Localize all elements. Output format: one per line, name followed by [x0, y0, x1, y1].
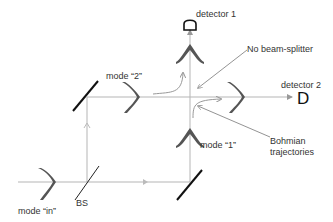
bohmian-label-line1: Bohmian — [270, 137, 306, 146]
no-beam-splitter-label: No beam-splitter — [247, 45, 313, 54]
detector-1-icon — [184, 20, 196, 30]
mode-1-label: mode “1” — [200, 141, 236, 150]
detector-1-label: detector 1 — [196, 10, 236, 19]
wavepacket-icons — [38, 44, 245, 200]
bohmian-trajectory-upper — [153, 73, 183, 94]
beam-direction-arrow-icon — [143, 179, 148, 185]
bohmian-trajectory-right — [193, 99, 221, 118]
detector-2-icon: D — [297, 90, 309, 107]
bohmian-label-line2: trajectories — [270, 148, 314, 157]
wavepacket-mode-in-icon — [38, 168, 56, 200]
mirror-top-left — [73, 81, 98, 111]
mode-2-label: mode “2” — [106, 72, 142, 81]
pointer-bohmian — [198, 106, 270, 137]
interferometer-diagram — [0, 0, 333, 222]
pointer-no-beam-splitter — [198, 50, 247, 88]
mode-in-label: mode “in” — [18, 207, 56, 216]
beam-splitter-label: BS — [76, 199, 88, 208]
